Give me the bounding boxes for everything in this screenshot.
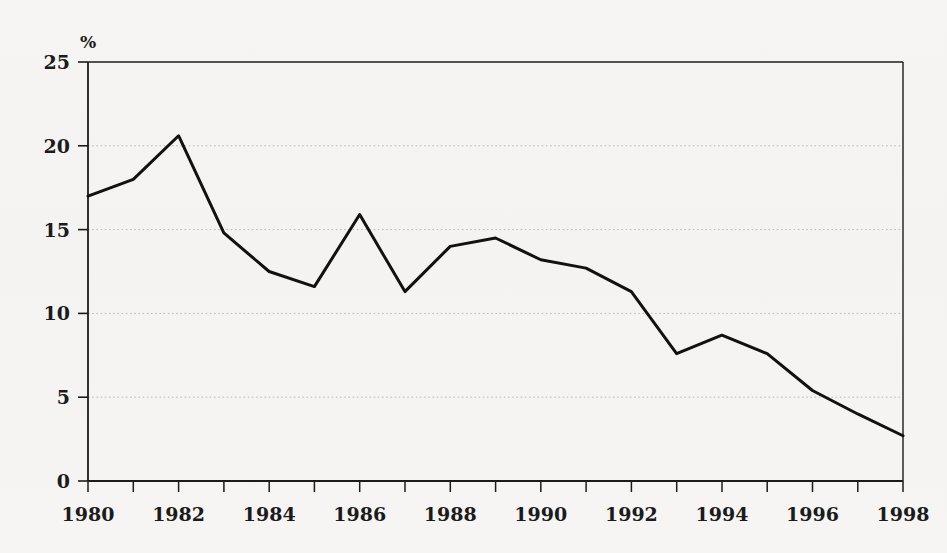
x-tick-label-1982: 1982 (152, 503, 205, 525)
y-tick-label-15: 15 (44, 219, 70, 241)
x-tick-label-1986: 1986 (333, 503, 386, 525)
x-axis-labels: 1980 1982 1984 1986 1988 1990 1992 1994 … (62, 503, 930, 525)
x-tick-label-1992: 1992 (605, 503, 658, 525)
y-tick-label-20: 20 (44, 135, 70, 157)
gridlines-horizontal (88, 146, 903, 397)
y-tick-label-10: 10 (44, 302, 70, 324)
x-tick-label-1998: 1998 (877, 503, 930, 525)
x-tick-label-1980: 1980 (62, 503, 115, 525)
x-tick-label-1988: 1988 (424, 503, 477, 525)
chart-figure: 0 5 10 15 20 25 % (0, 0, 947, 553)
y-axis-ticks (78, 62, 88, 481)
x-tick-label-1996: 1996 (786, 503, 839, 525)
data-series-line (88, 136, 903, 436)
line-chart-plot: 0 5 10 15 20 25 % (0, 0, 947, 553)
x-axis-ticks (88, 481, 903, 492)
y-tick-label-25: 25 (44, 51, 70, 73)
y-tick-label-5: 5 (57, 386, 70, 408)
plot-frame (88, 62, 903, 481)
y-axis-unit-label: % (80, 32, 96, 52)
x-tick-label-1990: 1990 (514, 503, 567, 525)
y-axis-labels: 0 5 10 15 20 25 (44, 51, 70, 492)
y-tick-label-0: 0 (57, 470, 70, 492)
x-tick-label-1994: 1994 (696, 503, 749, 525)
x-tick-label-1984: 1984 (243, 503, 296, 525)
